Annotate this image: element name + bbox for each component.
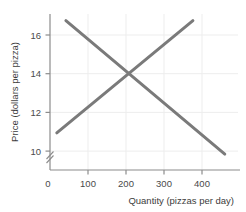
y-tick-label-12: 12 xyxy=(30,107,41,118)
data-curves xyxy=(57,21,225,155)
y-tick-label-16: 16 xyxy=(30,30,41,41)
supply-demand-chart: 16 14 12 10 0 100 200 300 400 Quantity (… xyxy=(0,0,246,212)
y-tick-label-14: 14 xyxy=(30,68,41,79)
gridlines-horizontal xyxy=(50,35,238,151)
supply-curve xyxy=(57,21,193,133)
x-tick-label-200: 200 xyxy=(118,178,134,189)
origin-label-0: 0 xyxy=(45,178,50,189)
chart-figure: 16 14 12 10 0 100 200 300 400 Quantity (… xyxy=(0,0,246,212)
y-axis-title: Price (dollars per pizza) xyxy=(9,42,20,142)
y-tick-label-10: 10 xyxy=(30,146,41,157)
y-tick-marks xyxy=(46,35,51,151)
x-tick-label-100: 100 xyxy=(80,178,96,189)
x-tick-label-400: 400 xyxy=(194,178,210,189)
x-tick-label-300: 300 xyxy=(156,178,172,189)
x-axis-title: Quantity (pizzas per day) xyxy=(128,195,234,206)
axes xyxy=(50,14,240,170)
x-tick-marks xyxy=(88,170,202,175)
demand-curve xyxy=(66,21,225,155)
